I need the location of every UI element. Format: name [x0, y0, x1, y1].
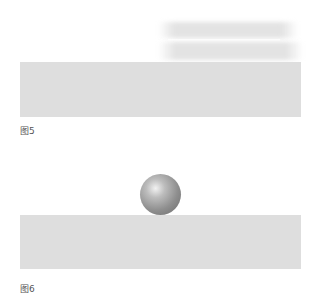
figure-caption: 图6	[20, 282, 35, 293]
figure-caption: 图5	[20, 124, 35, 137]
motion-streak	[168, 39, 280, 41]
motion-blur-lower	[158, 42, 303, 60]
motion-blur-upper	[158, 22, 298, 38]
figure-5: 图5	[0, 0, 318, 140]
sphere	[140, 174, 181, 215]
figure-6: 图6	[0, 140, 318, 293]
gray-slab	[20, 215, 301, 269]
gray-slab	[20, 62, 301, 117]
